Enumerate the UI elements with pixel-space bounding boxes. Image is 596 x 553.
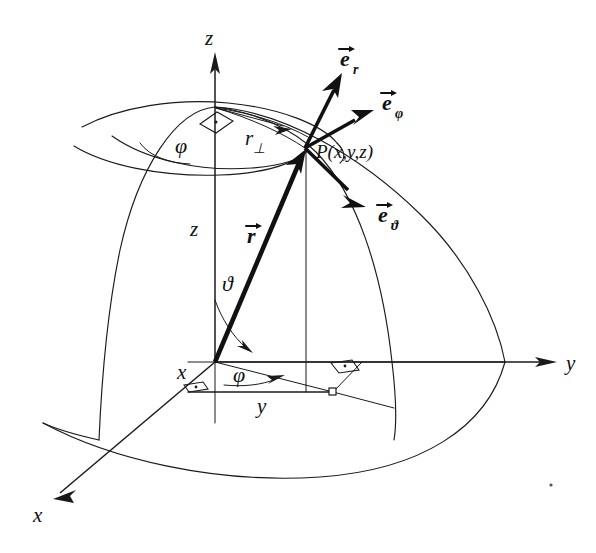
height-z-label: z: [189, 217, 198, 241]
right-angle-dot-origin: [195, 386, 198, 389]
cap-sector-arc: [112, 136, 308, 169]
phi-top-label: φ: [175, 133, 187, 158]
theta-label: ϑ: [222, 271, 234, 296]
scan-speck: [549, 483, 552, 486]
unit-vector-e-phi-label-group: e φ: [381, 90, 403, 121]
spherical-coordinates-diagram: z y x z x y φ φ ϑ r ⊥ P(x,y,z) r: [0, 0, 596, 553]
angle-arcs: [140, 143, 285, 386]
construction-lines: [60, 60, 549, 493]
unit-vector-e-theta-subscript: ϑ: [391, 218, 399, 233]
y-axis-label: y: [564, 351, 576, 375]
position-vector-r-label-group: r: [246, 223, 262, 248]
unit-vector-e-theta-label-group: e ϑ: [377, 202, 399, 233]
figure-root: z y x z x y φ φ ϑ r ⊥ P(x,y,z) r: [0, 0, 596, 553]
x-axis-line: [60, 362, 215, 493]
equator-arc-left-tail: [43, 423, 99, 440]
r-perp-label-group: r ⊥: [245, 126, 265, 156]
unit-vector-e-phi-subscript: φ: [395, 106, 403, 121]
y-component-label: y: [255, 394, 267, 418]
unit-vector-e-r-subscript: r: [353, 62, 359, 77]
r-perp-subscript: ⊥: [253, 141, 265, 156]
unit-vector-e-theta-overbar-tip: [387, 202, 393, 208]
position-vector-group: [215, 149, 306, 362]
right-angle-dot-foot: [344, 365, 347, 368]
phi-bottom-label: φ: [233, 362, 245, 387]
radial-line-extension: [333, 392, 394, 408]
z-axis-label: z: [204, 26, 213, 50]
foot-to-y-axis-line: [333, 362, 362, 392]
right-angle-dot-pole: [215, 121, 218, 124]
unit-vector-e-theta-arrowhead: [341, 195, 366, 208]
unit-vector-e-r-label-group: e r: [339, 46, 359, 77]
unit-vector-e-r-overbar-tip: [349, 46, 355, 52]
unit-vector-e-phi-arrowhead: [351, 110, 374, 125]
x-axis-arrowhead: [53, 490, 76, 503]
latitude-arc-lower: [74, 146, 308, 175]
position-vector-r-shaft: [215, 163, 299, 362]
x-component-label: x: [176, 360, 187, 384]
unit-vector-e-phi-overbar-tip: [391, 90, 397, 96]
projection-foot-marker: [329, 388, 336, 395]
position-vector-r-overbar-tip: [256, 223, 262, 229]
phi-bottom-arc: [224, 379, 276, 386]
point-P-label: P(x,y,z): [315, 141, 373, 163]
sphere-wireframe: [43, 102, 505, 479]
x-axis-label: x: [32, 503, 43, 527]
